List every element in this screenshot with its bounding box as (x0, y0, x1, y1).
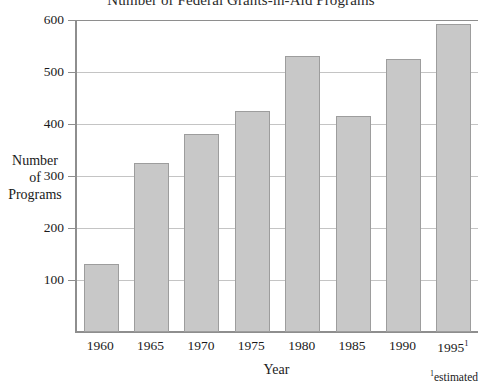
bar-1990 (386, 59, 421, 332)
x-axis-tick-label: 1990 (377, 338, 427, 354)
bar-1970 (184, 134, 219, 332)
bar-chart: Number of Federal Grants-in-Aid Programs… (0, 0, 482, 385)
x-axis-tick-label: 1970 (176, 338, 226, 354)
y-axis-tick-label: 600 (22, 13, 64, 27)
bar-1980 (285, 56, 320, 332)
x-axis-labels: 196019651970197519801985199019951 (75, 338, 478, 358)
y-axis-title-line-1: Number (2, 152, 68, 169)
x-axis-tick-label: 1985 (327, 338, 377, 354)
y-tick-600 (68, 20, 75, 21)
y-tick-400 (68, 124, 75, 125)
x-axis-tick-label: 1960 (75, 338, 125, 354)
y-tick-300 (68, 176, 75, 177)
x-axis-tick-label: 19951 (428, 338, 478, 356)
x-axis-tick-label: 1975 (226, 338, 276, 354)
y-axis-tick-label: 400 (22, 117, 64, 131)
chart-title: Number of Federal Grants-in-Aid Programs (0, 0, 482, 9)
footnote: 1estimated (430, 369, 478, 383)
y-axis-tick-label: 500 (22, 65, 64, 79)
x-label-footnote-marker: 1 (464, 338, 468, 348)
x-axis-title: Year (75, 362, 478, 378)
bar-1975 (235, 111, 270, 332)
y-axis-title-line-2: of (2, 169, 68, 186)
footnote-text: estimated (434, 371, 478, 383)
y-tick-200 (68, 228, 75, 229)
x-axis-tick-label: 1965 (125, 338, 175, 354)
x-axis-tick-label: 1980 (277, 338, 327, 354)
bar-1965 (134, 163, 169, 332)
bar-1995 (436, 24, 471, 332)
y-axis-tick-label: 200 (22, 221, 64, 235)
bars-layer (75, 20, 478, 332)
y-axis-tick-label: 100 (22, 273, 64, 287)
y-tick-500 (68, 72, 75, 73)
y-axis-title-line-3: Programs (2, 186, 68, 203)
bar-1985 (336, 116, 371, 332)
y-tick-100 (68, 280, 75, 281)
y-axis-title: Number of Programs (2, 152, 68, 203)
bar-1960 (84, 264, 119, 332)
